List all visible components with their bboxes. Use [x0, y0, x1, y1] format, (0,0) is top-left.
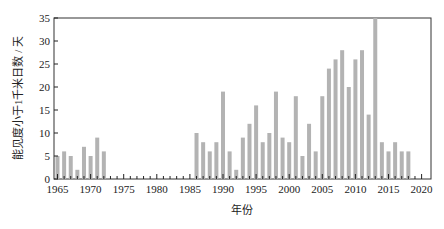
x-tick-label: 2010	[344, 183, 367, 195]
bar-2014	[380, 142, 384, 179]
bar-1966	[62, 151, 66, 179]
bar-1997	[267, 133, 271, 179]
y-tick-label: 35	[39, 12, 51, 24]
x-tick-label: 1990	[212, 183, 235, 195]
bar-2002	[300, 156, 304, 179]
x-tick-label: 1975	[113, 183, 136, 195]
bar-2006	[327, 69, 331, 179]
bar-1993	[241, 138, 245, 179]
y-tick-label: 30	[39, 35, 51, 47]
bar-2016	[393, 142, 397, 179]
bar-2005	[320, 96, 324, 179]
y-tick-label: 10	[39, 127, 51, 139]
bar-2007	[334, 59, 338, 179]
bar-2012	[367, 115, 371, 179]
bar-2013	[373, 18, 377, 179]
bar-2009	[347, 87, 351, 179]
bar-2008	[340, 50, 344, 179]
y-tick-label: 0	[45, 173, 51, 185]
bar-2003	[307, 124, 311, 179]
bar-1988	[208, 151, 212, 179]
y-tick-label: 15	[39, 104, 51, 116]
bar-1996	[261, 142, 265, 179]
bar-2010	[353, 59, 357, 179]
bars	[56, 18, 411, 179]
bar-1967	[69, 156, 73, 179]
bar-2001	[294, 96, 298, 179]
bar-1971	[95, 138, 99, 179]
bar-2011	[360, 50, 364, 179]
x-tick-label: 1980	[146, 183, 169, 195]
bar-1986	[195, 133, 199, 179]
x-axis-title: 年份	[231, 203, 253, 216]
x-tick-label: 2000	[278, 183, 301, 195]
bar-2000	[287, 142, 291, 179]
bar-2017	[400, 151, 404, 179]
x-tick-label: 1970	[80, 183, 103, 195]
x-tick-label: 2020	[411, 183, 434, 195]
bar-2018	[406, 151, 410, 179]
x-tick-label: 2015	[378, 183, 401, 195]
y-axis-title: 能见度小于1千米日数 / 天	[11, 36, 24, 160]
bar-1994	[247, 124, 251, 179]
bar-1969	[82, 147, 86, 179]
x-tick-label: 1985	[179, 183, 202, 195]
bar-chart: 1965197019751980198519901995200020052010…	[0, 0, 444, 229]
bar-1991	[228, 151, 232, 179]
bar-1999	[281, 138, 285, 179]
y-tick-label: 5	[45, 150, 51, 162]
y-axis: 05101520253035	[39, 12, 58, 185]
bar-2004	[314, 151, 318, 179]
y-tick-label: 20	[39, 81, 51, 93]
bar-1989	[214, 142, 218, 179]
bar-1995	[254, 105, 258, 179]
bar-1990	[221, 92, 225, 179]
bar-1987	[201, 142, 205, 179]
bar-1972	[102, 151, 106, 179]
x-tick-label: 1995	[245, 183, 268, 195]
x-tick-label: 2005	[311, 183, 334, 195]
bar-1998	[274, 92, 278, 179]
y-tick-label: 25	[39, 58, 51, 70]
